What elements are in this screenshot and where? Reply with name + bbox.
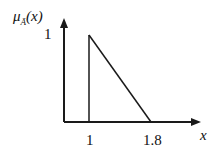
- x-axis-arrow: [191, 118, 201, 126]
- y-axis-label: μÃ(x): [13, 9, 43, 27]
- x-tick-1: 1: [86, 133, 94, 148]
- x-axis-label: x: [200, 128, 207, 143]
- y-label-arg: (x): [26, 8, 43, 24]
- y-axis-arrow: [60, 18, 68, 28]
- x-tick-1-8: 1.8: [143, 133, 162, 148]
- y-label-mu: μ: [13, 8, 21, 24]
- y-tick-1: 1: [44, 27, 52, 42]
- falling-edge: [89, 35, 151, 122]
